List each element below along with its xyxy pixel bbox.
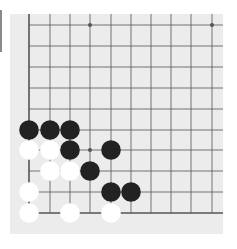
black-stone[interactable] [101, 182, 121, 202]
white-stone[interactable] [60, 203, 80, 223]
black-stone[interactable] [80, 161, 100, 181]
star-point [88, 23, 92, 27]
black-stone[interactable] [121, 182, 141, 202]
black-stone[interactable] [60, 120, 80, 140]
white-stone[interactable] [19, 203, 39, 223]
black-stone[interactable] [40, 120, 60, 140]
white-stone[interactable] [40, 140, 60, 160]
white-stone[interactable] [40, 161, 60, 181]
white-stone[interactable] [19, 140, 39, 160]
white-stone[interactable] [101, 203, 121, 223]
black-stone[interactable] [60, 140, 80, 160]
star-point [210, 23, 214, 27]
black-stone[interactable] [101, 140, 121, 160]
star-point [88, 148, 92, 152]
white-stone[interactable] [19, 182, 39, 202]
black-stone[interactable] [19, 120, 39, 140]
white-stone[interactable] [60, 161, 80, 181]
go-board-grid[interactable] [0, 0, 237, 249]
